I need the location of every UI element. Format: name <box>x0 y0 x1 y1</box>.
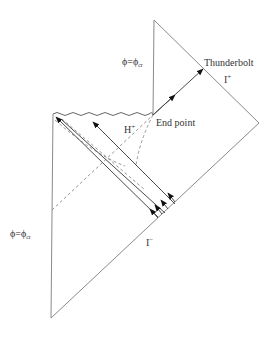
pulse-ray-1 <box>150 209 158 218</box>
ray-left-inner <box>62 120 165 213</box>
penrose-diagram: ϕ=ϕcr Thunderbolt I+ End point H+ ϕ=ϕcr … <box>0 0 273 339</box>
future-null-infinity <box>154 20 259 123</box>
label-phi-left: ϕ=ϕcr <box>10 228 31 240</box>
label-end-point: End point <box>156 117 195 128</box>
pulse-ray-3 <box>161 200 168 209</box>
label-phi-top: ϕ=ϕcr <box>122 56 143 68</box>
past-null-infinity <box>51 123 259 318</box>
ray-right <box>93 122 175 204</box>
singularity-wavy-line <box>53 113 153 116</box>
label-scri-plus: I+ <box>224 73 231 85</box>
upper-origin-line <box>153 20 154 115</box>
label-thunderbolt: Thunderbolt <box>204 57 254 68</box>
lower-origin-line <box>51 114 53 318</box>
thunderbolt-ray-mid-arrow <box>153 95 175 115</box>
ray-left-outer <box>56 117 158 217</box>
label-scri-minus: I− <box>146 236 153 248</box>
ingoing-rays <box>56 117 175 217</box>
